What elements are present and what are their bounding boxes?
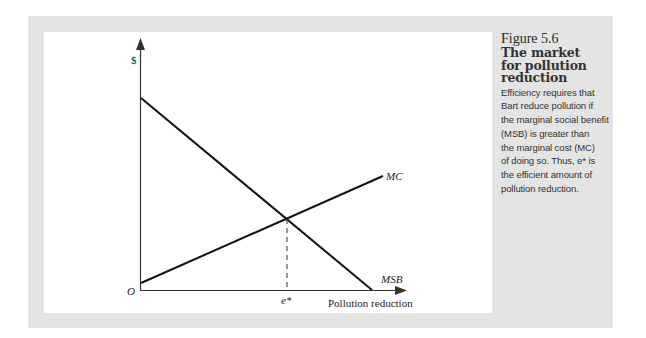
origin-label: O	[127, 285, 135, 297]
figure-title: The market for pollution reduction	[501, 47, 611, 85]
y-axis-label: $	[131, 54, 137, 66]
mc-label: MC	[385, 170, 403, 182]
x-axis-arrow-icon	[395, 286, 407, 295]
msb-label: MSB	[380, 273, 403, 285]
caption-line: Efficiency requires that	[501, 87, 595, 98]
y-axis-arrow-icon	[136, 38, 145, 50]
caption-line: pollution reduction.	[501, 183, 579, 194]
caption-line: (MSB) is greater than	[501, 128, 589, 139]
figure-caption: Figure 5.6 The market for pollution redu…	[501, 32, 611, 196]
msb-curve	[141, 98, 372, 290]
figure-caption-text: Efficiency requires that Bart reduce pol…	[501, 86, 611, 196]
figure-title-line: reduction	[501, 70, 567, 85]
mc-curve	[141, 176, 383, 283]
caption-line: Bart reduce pollution if	[501, 100, 593, 111]
caption-line: the efficient amount of	[501, 169, 592, 180]
e-star-label: e*	[281, 294, 292, 306]
caption-line: of doing so. Thus, e* is	[501, 155, 595, 166]
caption-line: the marginal social benefit	[501, 114, 609, 125]
x-axis-label: Pollution reduction	[328, 297, 413, 309]
figure-number: Figure 5.6	[501, 32, 611, 46]
caption-line: the marginal cost (MC)	[501, 142, 595, 153]
